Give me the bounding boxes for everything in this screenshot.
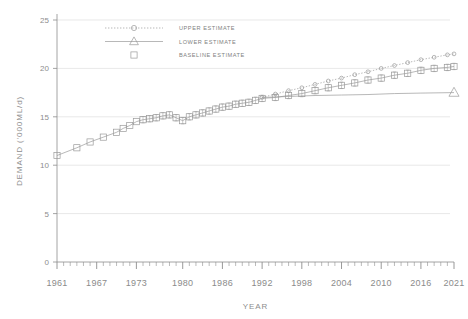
series-line-baseline-estimate (57, 66, 454, 155)
y-tick-label-10: 10 (40, 161, 49, 170)
y-tick-label-15: 15 (40, 113, 49, 122)
y-tick-label-20: 20 (40, 64, 49, 73)
y-axis-title: DEMAND ('000ML/d) (15, 96, 24, 186)
y-tick-label-25: 25 (40, 16, 49, 25)
legend-label-1: LOWER ESTIMATE (179, 39, 236, 45)
series-line-upper-estimate (262, 54, 454, 98)
x-tick-label-2021: 2021 (443, 278, 464, 288)
x-tick-label-1998: 1998 (291, 278, 312, 288)
x-tick-label-1986: 1986 (212, 278, 233, 288)
x-tick-label-1961: 1961 (46, 278, 67, 288)
x-tick-label-2010: 2010 (371, 278, 392, 288)
x-tick-label-1973: 1973 (126, 278, 147, 288)
chart-canvas: 0510152025196119671973198019861992199820… (0, 0, 468, 319)
x-tick-label-1992: 1992 (251, 278, 272, 288)
x-tick-label-1980: 1980 (172, 278, 193, 288)
demand-forecast-chart: 0510152025196119671973198019861992199820… (0, 0, 468, 319)
x-tick-label-2004: 2004 (331, 278, 352, 288)
x-axis-title: YEAR (243, 302, 268, 311)
y-tick-label-5: 5 (45, 210, 50, 219)
y-tick-label-0: 0 (45, 258, 50, 267)
marker-lower-2021 (449, 87, 459, 96)
legend-marker-triangle-icon (130, 37, 139, 45)
legend-label-2: BASELINE ESTIMATE (179, 52, 245, 58)
legend-label-0: UPPER ESTIMATE (179, 25, 235, 31)
x-tick-label-2016: 2016 (410, 278, 431, 288)
legend-marker-square-icon (131, 52, 137, 58)
x-tick-label-1967: 1967 (86, 278, 107, 288)
